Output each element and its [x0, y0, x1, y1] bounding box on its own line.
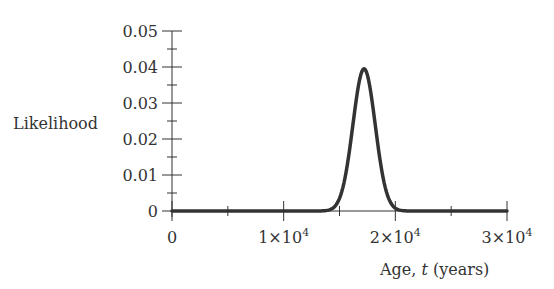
x-axis: 01×1042×1043×104 — [167, 201, 533, 247]
y-tick-label: 0.01 — [122, 166, 158, 185]
x-tick-label: 2×104 — [370, 226, 421, 247]
y-tick-label: 0.04 — [122, 58, 158, 77]
x-tick-label: 1×104 — [258, 226, 309, 247]
y-axis-label: Likelihood — [13, 114, 98, 133]
y-tick-label: 0.03 — [122, 94, 158, 113]
y-tick-label: 0.05 — [122, 22, 158, 41]
x-tick-label: 3×104 — [482, 226, 533, 247]
y-axis: 00.010.020.030.040.05 — [122, 22, 182, 221]
x-axis-label: Age, t (years) — [379, 260, 489, 279]
x-tick-label: 0 — [167, 228, 177, 247]
likelihood-chart: 00.010.020.030.040.05 01×1042×1043×104 L… — [0, 0, 554, 289]
y-tick-label: 0 — [148, 202, 158, 221]
likelihood-curve — [172, 69, 507, 211]
y-tick-label: 0.02 — [122, 130, 158, 149]
